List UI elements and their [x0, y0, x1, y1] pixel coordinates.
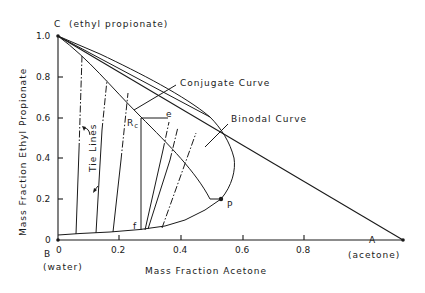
y-axis-title: Mass Fraction Ethyl Propionate	[18, 68, 28, 236]
Rc-sub: c	[134, 122, 139, 130]
y-tick-label: 0.4	[36, 153, 51, 163]
Rc-main: R	[127, 118, 134, 128]
y-tick-label: 0.2	[36, 194, 50, 204]
vertex-B-dot	[56, 238, 60, 242]
vertex-A-letter: A	[369, 235, 376, 245]
vertex-B-letter: B	[44, 249, 51, 259]
point-f-label: f	[133, 221, 137, 231]
tie-line	[113, 160, 121, 232]
tie-line	[162, 133, 196, 228]
x-tick-label: 0.4	[173, 245, 188, 255]
point-P-label: P	[227, 200, 233, 210]
y-tick-label: 0.8	[36, 72, 51, 82]
x-axis-title: Mass Fraction Acetone	[145, 266, 267, 276]
vertex-B-desc: (water)	[43, 262, 83, 272]
x-tick-label: 0	[56, 245, 62, 255]
plait-point-P	[219, 197, 223, 201]
ternary-diagram: C (ethyl propionate) B (water) A (aceton…	[0, 0, 425, 293]
tie-line	[102, 80, 107, 130]
y-tick-label: 1.0	[36, 31, 51, 41]
conjugate-curve-label: Conjugate Curve	[180, 78, 270, 88]
y-tick-label: 0.6	[36, 113, 51, 123]
vertex-A-dot	[401, 238, 405, 242]
x-tick-label: 0.8	[296, 245, 311, 255]
vertex-A-desc: (acetone)	[348, 250, 400, 260]
c-line-upper	[58, 36, 210, 117]
vertex-C-letter: C	[54, 19, 61, 29]
tie-line	[148, 160, 170, 229]
point-e-label: e	[166, 109, 173, 119]
vertex-C-desc: (ethyl propionate)	[69, 19, 168, 29]
binodal-curve-label: Binodal Curve	[231, 114, 307, 124]
binodal-curve	[58, 36, 234, 235]
tie-line	[163, 122, 169, 150]
tie-line	[79, 56, 82, 150]
tie-lines-label: Tie Lines	[88, 123, 98, 173]
x-tick-label: 0.2	[111, 245, 125, 255]
tie-line	[170, 127, 178, 160]
conjugate-leader	[134, 85, 176, 110]
tie-line	[76, 150, 79, 234]
point-Rc-label: Rc	[127, 118, 139, 130]
y-tick-label: 0	[45, 235, 51, 245]
x-tick-label: 0.6	[235, 245, 250, 255]
